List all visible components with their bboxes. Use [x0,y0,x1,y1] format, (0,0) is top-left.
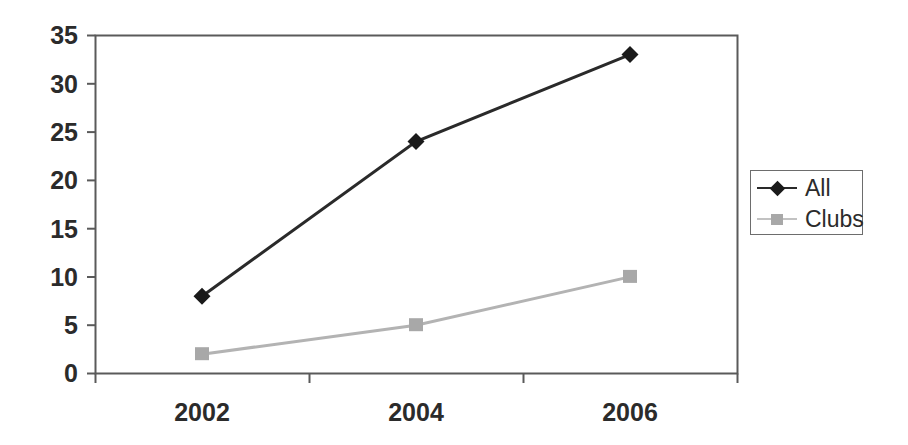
series-clubs [195,270,637,360]
y-axis-label-35: 35 [30,23,78,48]
y-axis-label-15: 15 [30,217,78,242]
y-axis-label-20: 20 [30,168,78,193]
x-axis-label-2006: 2006 [602,400,658,425]
legend-item-clubs: Clubs [751,203,862,235]
y-axis-label-30: 30 [30,72,78,97]
y-axis-label-10: 10 [30,265,78,290]
series-clubs-point-2002 [195,347,209,360]
diamond-marker-icon [769,180,785,196]
legend-label-all: All [805,177,831,200]
legend-label-clubs: Clubs [805,208,864,231]
x-axis-label-2002: 2002 [174,400,230,425]
legend-swatch-clubs [757,209,797,229]
line-chart: 35 30 25 20 15 10 5 0 2002 2004 2006 All… [0,0,908,445]
x-axis-ticks [96,374,738,384]
series-all-line [202,55,630,297]
series-clubs-point-2006 [623,270,637,283]
y-axis-ticks [87,36,96,374]
square-marker-icon [771,214,783,225]
series-clubs-line [202,277,630,354]
x-axis-label-2004: 2004 [388,400,444,425]
legend-item-all: All [751,172,862,204]
y-axis-label-25: 25 [30,120,78,145]
y-axis-label-5: 5 [30,313,78,338]
chart-legend: All Clubs [750,170,863,235]
y-axis-label-0: 0 [30,361,78,386]
series-all [194,46,639,305]
legend-swatch-all [757,178,797,198]
series-clubs-point-2004 [409,318,423,331]
series-all-point-2006 [622,46,639,63]
